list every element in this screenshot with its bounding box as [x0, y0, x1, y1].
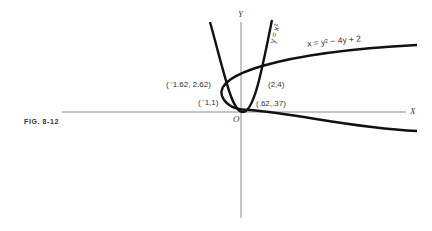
point-label-neg1-1: (⁻1,1) — [198, 98, 218, 107]
x-axis-label: X — [410, 106, 416, 116]
parabola-x-equals-y-squared-minus-4y-plus-2 — [221, 45, 417, 131]
origin-label: O — [233, 114, 240, 124]
point-label-neg1.62-2.62: (⁻1.62, 2.62) — [166, 80, 211, 89]
point-label-2-4: (2,4) — [268, 80, 284, 89]
figure-graph — [0, 0, 432, 231]
point-label-0.62-0.37: (.62,.37) — [256, 99, 286, 108]
y-axis-label: Y — [238, 9, 243, 19]
figure-caption: FIG. 8-12 — [24, 118, 59, 125]
